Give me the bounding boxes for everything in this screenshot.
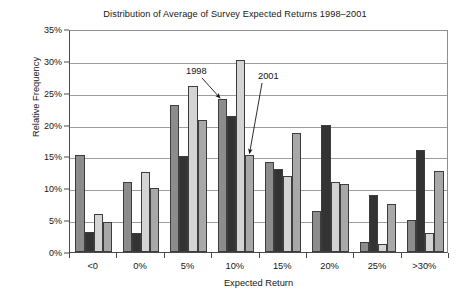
bar <box>94 214 103 252</box>
x-axis-tick-mark <box>401 253 402 258</box>
bar <box>312 211 321 252</box>
bar <box>245 155 254 252</box>
bar <box>188 86 197 252</box>
bar <box>283 176 292 252</box>
y-axis-tick-label: 10% <box>22 184 62 194</box>
y-axis-tick-label: 30% <box>22 57 62 67</box>
bar <box>292 133 301 252</box>
bar <box>407 220 416 252</box>
y-axis-tick-label: 25% <box>22 89 62 99</box>
bar <box>265 162 274 252</box>
y-axis-tick-label: 35% <box>22 25 62 35</box>
gridline <box>70 95 447 96</box>
bar <box>75 155 84 252</box>
x-axis-tick-label: >30% <box>412 261 436 271</box>
bar <box>387 204 396 252</box>
x-axis-tick-label: 20% <box>320 261 339 271</box>
bar <box>321 125 330 252</box>
bar <box>236 60 245 252</box>
bar <box>425 233 434 252</box>
x-axis-tick-label: 15% <box>273 261 292 271</box>
y-axis-tick-label: 20% <box>22 121 62 131</box>
gridline <box>70 158 447 159</box>
x-axis-tick-mark <box>306 253 307 258</box>
x-axis-tick-label: 25% <box>368 261 387 271</box>
x-axis-tick-mark <box>259 253 260 258</box>
bar <box>227 116 236 252</box>
bar <box>378 244 387 252</box>
bar <box>150 188 159 252</box>
bar <box>218 99 227 252</box>
x-axis-tick-mark <box>353 253 354 258</box>
y-axis-tick-label: 15% <box>22 152 62 162</box>
bar <box>123 182 132 252</box>
annotation-label: 2001 <box>258 71 279 81</box>
bar <box>85 232 94 252</box>
annotation-label: 1998 <box>186 66 207 76</box>
plot-area <box>69 30 448 253</box>
x-axis-tick-label: <0 <box>87 261 98 271</box>
bar <box>369 195 378 252</box>
bar <box>416 150 425 252</box>
bar <box>198 120 207 252</box>
x-axis-tick-mark <box>448 253 449 258</box>
bar <box>103 222 112 252</box>
bar <box>141 172 150 252</box>
bar <box>434 171 443 252</box>
chart-title: Distribution of Average of Survey Expect… <box>0 9 470 19</box>
gridline <box>70 63 447 64</box>
x-axis-tick-label: 10% <box>226 261 245 271</box>
x-axis-tick-mark <box>69 253 70 258</box>
bar <box>179 156 188 252</box>
x-axis-title: Expected Return <box>69 278 448 288</box>
bar <box>132 233 141 252</box>
y-axis-tick-label: 5% <box>22 216 62 226</box>
x-axis-tick-mark <box>164 253 165 258</box>
x-axis-tick-mark <box>211 253 212 258</box>
y-axis-tick-label: 0% <box>22 248 62 258</box>
x-axis-tick-label: 5% <box>181 261 194 271</box>
bar <box>331 182 340 252</box>
x-axis-tick-mark <box>116 253 117 258</box>
bar <box>360 242 369 252</box>
bar <box>274 169 283 252</box>
chart-container: Distribution of Average of Survey Expect… <box>0 0 470 300</box>
bar <box>170 105 179 252</box>
bar <box>340 184 349 252</box>
x-axis-tick-label: 0% <box>133 261 146 271</box>
gridline <box>70 127 447 128</box>
